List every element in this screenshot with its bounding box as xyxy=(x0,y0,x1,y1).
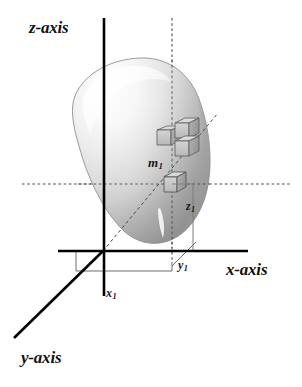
z-component-label: z1 xyxy=(186,199,195,214)
x-axis-label: x-axis xyxy=(226,260,267,280)
mass-element-cube xyxy=(164,172,186,192)
figure-canvas: z-axis x-axis y-axis m1 z1 y1 x1 xyxy=(0,0,302,387)
z-component-subscript: 1 xyxy=(191,205,196,214)
mass-element-subscript: 1 xyxy=(158,161,163,171)
mass-element-label: m1 xyxy=(148,155,163,171)
cube-top-right xyxy=(175,118,199,138)
z-component-symbol: z xyxy=(186,199,191,213)
x-component-subscript: 1 xyxy=(112,292,117,301)
mass-element-symbol: m xyxy=(148,155,158,170)
x-component-label: x1 xyxy=(106,286,117,301)
cube-bottom-right xyxy=(175,136,199,156)
y-axis-label: y-axis xyxy=(21,348,61,368)
z-axis-label: z-axis xyxy=(29,18,68,38)
diagram-svg xyxy=(0,0,302,387)
y-axis-line xyxy=(14,251,103,338)
y-component-subscript: 1 xyxy=(183,264,188,273)
y-component-label: y1 xyxy=(178,258,188,273)
